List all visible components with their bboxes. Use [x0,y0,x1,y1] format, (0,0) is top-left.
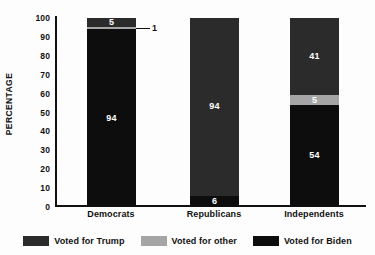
value-callout: 1 [136,23,157,33]
bar-segment-value: 41 [309,52,319,61]
bar-segment-democrats-voted-for-biden[interactable]: 94 [87,29,136,207]
bar-group-republicans[interactable]: 946 [190,18,239,207]
callout-leader-line [136,28,150,30]
x-axis-label-republicans: Republicans [159,209,269,219]
legend-label: Voted for Trump [54,236,124,246]
y-axis-tick-10: 10 [40,183,50,193]
legend-item-voted-for-other[interactable]: Voted for other [141,236,237,246]
y-axis-tick-0: 0 [45,202,50,212]
legend-label: Voted for other [172,236,237,246]
plot-area: 5119494641554 [57,18,366,207]
y-axis-tick-40: 40 [40,126,50,136]
legend-label: Voted for Biden [284,236,352,246]
callout-value: 1 [152,23,157,33]
bar-segment-democrats-voted-for-trump[interactable]: 5 [87,18,136,27]
legend-swatch [253,236,279,246]
bar-segment-value: 54 [309,151,319,160]
y-axis-tick-50: 50 [40,108,50,118]
bar-segment-value: 94 [106,114,116,123]
bar-segment-value: 94 [209,102,219,111]
y-axis-tick-90: 90 [40,32,50,42]
legend-swatch [23,236,49,246]
bar-segment-independents-voted-for-other[interactable]: 5 [290,95,339,104]
legend-item-voted-for-trump[interactable]: Voted for Trump [23,236,124,246]
legend-item-voted-for-biden[interactable]: Voted for Biden [253,236,352,246]
bar-segment-independents-voted-for-biden[interactable]: 54 [290,105,339,207]
y-axis-tick-70: 70 [40,70,50,80]
y-axis-tick-60: 60 [40,89,50,99]
bar-segment-republicans-voted-for-biden[interactable]: 6 [190,196,239,207]
y-axis-title-text: PERCENTAGE [4,72,14,134]
bar-segment-republicans-voted-for-trump[interactable]: 94 [190,18,239,196]
chart-legend: Voted for TrumpVoted for otherVoted for … [0,232,375,250]
x-axis-label-independents: Independents [259,209,369,219]
x-axis-label-democrats: Democrats [56,209,166,219]
y-axis-tick-20: 20 [40,164,50,174]
bar-group-democrats[interactable]: 51194 [87,18,136,207]
x-axis-category-labels: DemocratsRepublicansIndependents [57,209,366,225]
bar-group-independents[interactable]: 41554 [290,18,339,207]
bar-segment-value: 6 [212,197,217,206]
legend-swatch [141,236,167,246]
y-axis-tick-30: 30 [40,145,50,155]
y-axis-title: PERCENTAGE [2,0,16,207]
bar-segment-value: 5 [109,18,114,27]
y-axis-tick-100: 100 [36,13,50,23]
y-axis-tick-labels: 1009080706050403020100 [18,12,50,207]
bar-segment-independents-voted-for-trump[interactable]: 41 [290,18,339,95]
bar-segment-value: 5 [312,96,317,105]
stacked-bar-chart: PERCENTAGE 1009080706050403020100 511949… [0,0,375,255]
y-axis-tick-80: 80 [40,51,50,61]
